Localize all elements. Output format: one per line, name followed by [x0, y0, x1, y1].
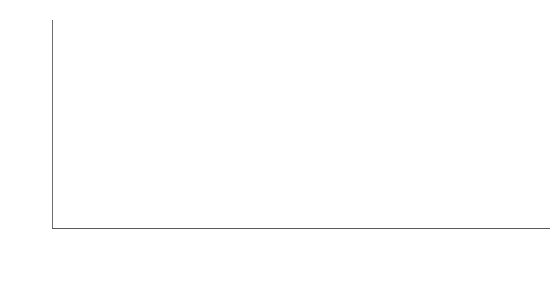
- x-axis-baseline: [52, 228, 550, 229]
- chart-figure: [0, 0, 554, 286]
- plot-area: [52, 20, 550, 228]
- y-axis-ticks: [0, 0, 52, 286]
